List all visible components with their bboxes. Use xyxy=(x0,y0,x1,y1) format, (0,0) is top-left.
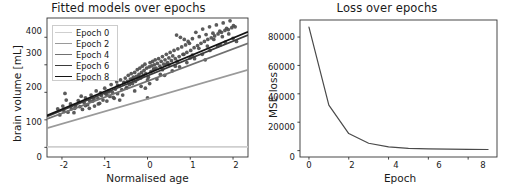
scatter-point xyxy=(109,83,113,87)
scatter-point xyxy=(159,60,163,64)
legend-label-epoch-2: Epoch 2 xyxy=(76,39,109,49)
panel-fitted-models: Fitted models over epochs brain volume [… xyxy=(0,0,257,192)
scatter-point xyxy=(143,62,147,66)
scatter-point xyxy=(197,46,201,50)
scatter-point xyxy=(133,89,137,93)
scatter-point xyxy=(194,30,198,34)
scatter-point xyxy=(221,21,225,25)
scatter-point xyxy=(161,55,165,59)
scatter-point xyxy=(133,71,137,75)
plot-area-fitted-models xyxy=(0,0,257,192)
scatter-point xyxy=(184,43,188,47)
scatter-point xyxy=(153,58,157,62)
scatter-point xyxy=(96,102,100,106)
scatter-point xyxy=(176,47,180,51)
legend-fitted-models: Epoch 0 Epoch 2 Epoch 4 Epoch 6 Epoch 8 xyxy=(52,25,118,81)
scatter-point xyxy=(79,94,83,98)
plot-area-loss-over-epochs xyxy=(257,0,514,192)
scatter-point xyxy=(189,49,193,53)
scatter-point xyxy=(191,37,195,41)
scatter-point xyxy=(233,25,237,29)
scatter-point xyxy=(93,104,97,108)
scatter-point xyxy=(148,82,152,86)
legend-label-epoch-6: Epoch 6 xyxy=(76,61,109,71)
scatter-point xyxy=(197,35,201,39)
legend-swatch-epoch-8 xyxy=(55,76,72,77)
legend-swatch-epoch-4 xyxy=(55,54,72,55)
legend-swatch-epoch-0 xyxy=(55,32,72,33)
scatter-point xyxy=(87,106,91,110)
scatter-point xyxy=(129,72,133,76)
scatter-point xyxy=(214,23,218,27)
legend-label-epoch-4: Epoch 4 xyxy=(76,50,109,60)
scatter-point xyxy=(201,27,205,31)
scatter-point xyxy=(182,38,186,42)
loss-curve xyxy=(309,27,488,149)
scatter-point xyxy=(206,38,210,42)
scatter-point xyxy=(192,46,196,50)
scatter-point xyxy=(121,93,125,97)
scatter-point xyxy=(171,54,175,58)
scatter-point xyxy=(208,25,212,29)
scatter-point xyxy=(226,28,230,32)
scatter-point xyxy=(220,30,224,34)
scatter-point xyxy=(227,32,231,36)
legend-swatch-epoch-2 xyxy=(55,43,72,44)
legend-swatch-epoch-6 xyxy=(55,65,72,66)
scatter-point xyxy=(72,111,76,115)
scatter-point xyxy=(188,41,192,45)
scatter-point xyxy=(199,41,203,45)
scatter-point xyxy=(119,78,123,82)
scatter-point xyxy=(212,38,216,42)
scatter-point xyxy=(180,45,184,49)
scatter-point xyxy=(213,34,217,38)
scatter-point xyxy=(167,56,171,60)
panel-loss-over-epochs: Loss over epochs MSE loss Epoch 0 20000 … xyxy=(257,0,514,192)
scatter-point xyxy=(143,86,147,90)
scatter-point xyxy=(105,99,109,103)
scatter-point xyxy=(228,19,232,23)
scatter-point xyxy=(123,76,127,80)
scatter-point xyxy=(182,52,186,56)
scatter-point xyxy=(81,108,85,112)
scatter-point xyxy=(103,86,107,90)
scatter-point xyxy=(177,55,181,59)
scatter-point xyxy=(168,51,172,55)
scatter-point xyxy=(204,33,208,37)
scatter-point xyxy=(179,35,183,39)
scatter-point xyxy=(170,59,174,63)
scatter-point xyxy=(203,40,207,44)
legend-label-epoch-8: Epoch 8 xyxy=(76,72,109,82)
scatter-point xyxy=(111,95,115,99)
scatter-point xyxy=(118,98,122,102)
scatter-point xyxy=(220,35,224,39)
scatter-point xyxy=(163,58,167,62)
scatter-point xyxy=(157,57,161,61)
scatter-point xyxy=(164,52,168,56)
scatter-point xyxy=(94,89,98,93)
legend-label-epoch-0: Epoch 0 xyxy=(76,28,109,38)
scatter-point xyxy=(63,92,67,96)
axes-frame xyxy=(300,20,497,157)
matplotlib-figure: Fitted models over epochs brain volume [… xyxy=(0,0,514,192)
scatter-point xyxy=(175,33,179,37)
scatter-point xyxy=(64,98,68,102)
scatter-point xyxy=(172,49,176,53)
scatter-point xyxy=(155,62,159,66)
